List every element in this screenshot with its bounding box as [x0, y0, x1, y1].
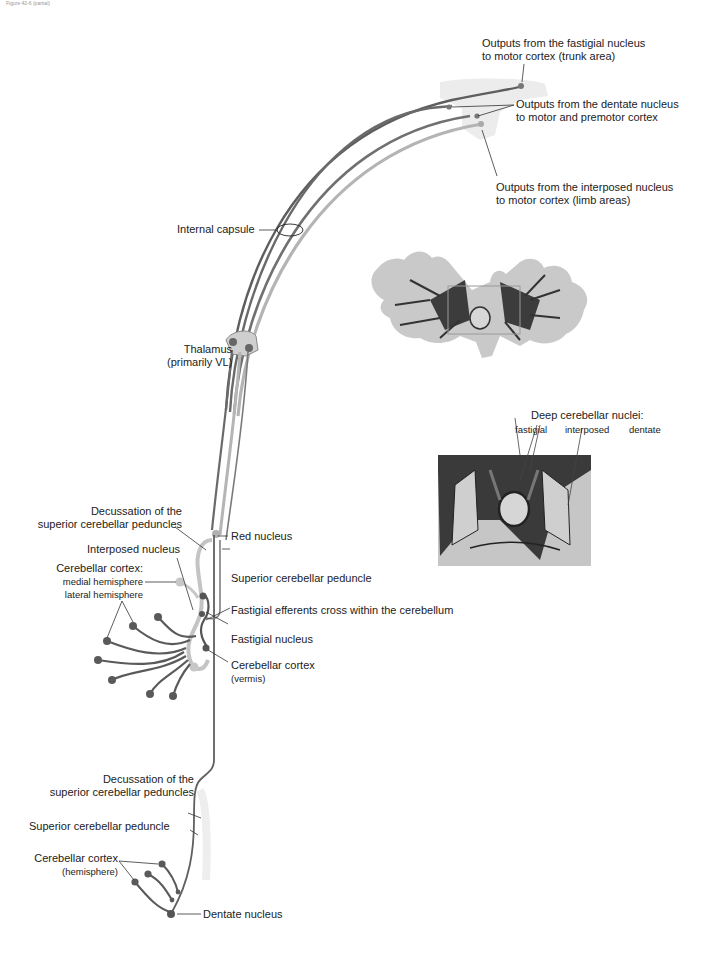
label-fastigial-efferents: Fastigial efferents cross within the cer… [231, 604, 453, 617]
thalamus-dot-2 [245, 344, 253, 352]
label-interposed-nucleus: Interposed nucleus [60, 543, 180, 556]
fastigial-nucleus-dot [200, 593, 207, 600]
label-internal-capsule: Internal capsule [177, 223, 255, 236]
label-cerebellar-cortex-upper: Cerebellar cortex: medial hemisphere lat… [20, 562, 143, 601]
label-cerebellar-cortex-vermis: Cerebellar cortex (vermis) [231, 659, 315, 685]
label-superior-peduncle-upper: Superior cerebellar peduncle [231, 572, 372, 585]
cerebellar-output-pathway-diagram [0, 0, 710, 953]
label-fastigial-nucleus: Fastigial nucleus [231, 633, 313, 646]
label-decussation-upper: Decussation of the superior cerebellar p… [20, 505, 182, 531]
dentate-nucleus-dot [167, 910, 175, 918]
lower-hemisphere-fibers [135, 864, 178, 912]
label-deep-nuclei-dentate: dentate [629, 424, 661, 435]
fastigial-nucleus-dot-2 [199, 611, 205, 617]
label-cerebellar-cortex-hemisphere: Cerebellar cortex (hemisphere) [20, 852, 118, 878]
label-red-nucleus: Red nucleus [231, 530, 292, 543]
lower-light-dot [190, 663, 199, 672]
label-decussation-lower: Decussation of the superior cerebellar p… [30, 773, 194, 799]
lateral-hemisphere-fibers [98, 617, 196, 696]
label-interposed-output: Outputs from the interposed nucleus to m… [496, 181, 673, 207]
dentate-terminal-dot-1 [446, 104, 451, 109]
label-thalamus: Thalamus (primarily VL) [167, 343, 232, 369]
thalamocortical-trunk-a [212, 350, 232, 530]
label-deep-nuclei-title: Deep cerebellar nuclei: [531, 409, 644, 422]
lower-peduncle-shadow [200, 790, 207, 880]
label-dentate-output: Outputs from the dentate nucleus to moto… [516, 98, 679, 124]
label-dentate-nucleus: Dentate nucleus [203, 908, 283, 921]
label-superior-peduncle-lower: Superior cerebellar peduncle [29, 820, 170, 833]
label-deep-nuclei-interposed: interposed [565, 424, 609, 435]
fastigial-terminal-dot [518, 83, 524, 89]
interposed-terminal-dot [478, 121, 484, 127]
cerebellum-section-image [371, 251, 587, 358]
lateral-hemisphere-dots [94, 613, 177, 700]
label-fastigial-output: Outputs from the fastigial nucleus to mo… [482, 37, 645, 63]
label-deep-nuclei-fastigial: fastigial [515, 424, 547, 435]
lower-hemisphere-dots [131, 860, 180, 902]
deep-nuclei-magnified-image [438, 418, 591, 566]
